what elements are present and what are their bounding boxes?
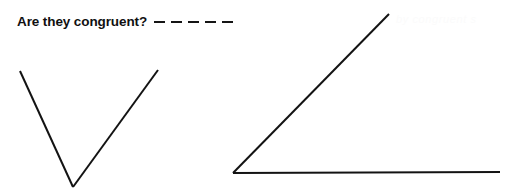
left-angle-left-ray bbox=[20, 71, 73, 187]
geometry-figures-layer bbox=[0, 0, 512, 195]
right-angle-horizontal-ray bbox=[233, 172, 500, 173]
left-angle-v-shape bbox=[20, 70, 158, 187]
figures-svg bbox=[0, 0, 512, 195]
left-angle-right-ray bbox=[73, 70, 158, 187]
right-angle-wide-shape bbox=[233, 14, 500, 173]
worksheet-canvas: Are they congruent? by congruent s bbox=[0, 0, 512, 195]
right-angle-diagonal-ray bbox=[233, 14, 389, 173]
